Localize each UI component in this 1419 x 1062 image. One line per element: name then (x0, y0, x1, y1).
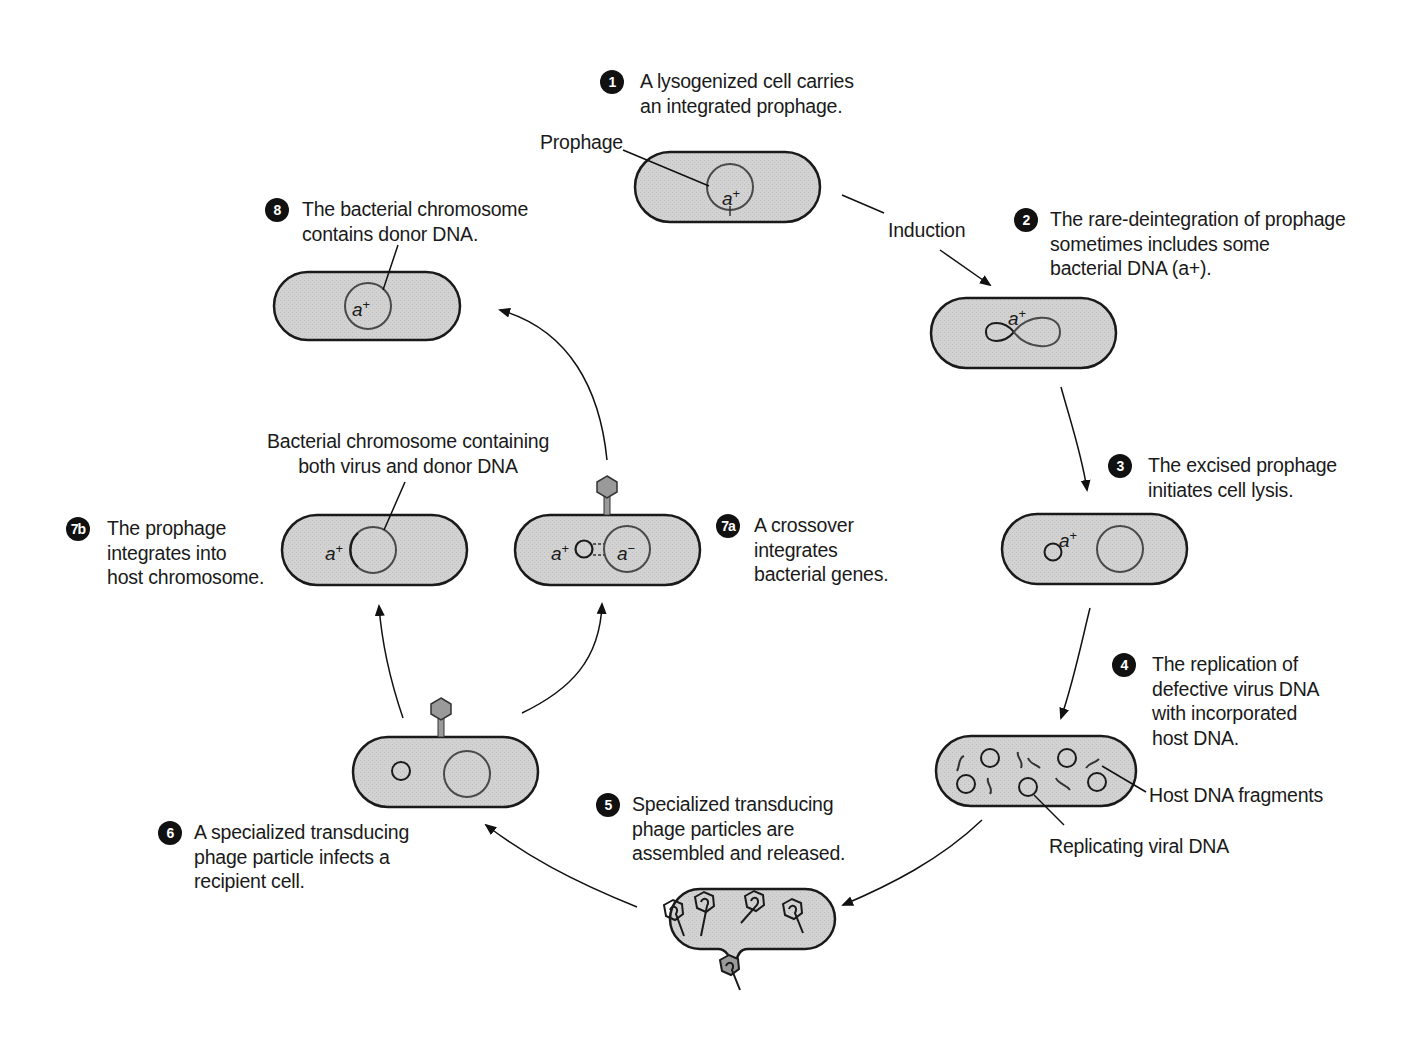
step-7a: 7a A crossover integrates bacterial gene… (716, 513, 888, 587)
gene-a-plus-cell-3: a+ (1059, 526, 1077, 551)
gene-a-plus-cell-7a: a+ (551, 539, 569, 564)
step-2-text: The rare-deintegration of prophage somet… (1050, 207, 1346, 281)
gene-a-plus-cell-8: a+ (352, 295, 370, 320)
step-1-badge: 1 (600, 70, 624, 94)
step-7a-badge: 7a (716, 514, 740, 538)
step-4: 4 The replication of defective virus DNA… (1112, 652, 1319, 750)
diagram-stage: 1 A lysogenized cell carries an integrat… (0, 0, 1419, 1062)
cell-7b-integrated (282, 482, 467, 585)
step-6: 6 A specialized transducing phage partic… (158, 820, 409, 894)
step-7b: 7b The prophage integrates into host chr… (66, 516, 264, 590)
step-1-text: A lysogenized cell carries an integrated… (640, 69, 854, 118)
step-4-text: The replication of defective virus DNA w… (1152, 652, 1319, 750)
step-6-text: A specialized transducing phage particle… (194, 820, 409, 894)
gene-a-plus-cell-2: a+ (1008, 304, 1026, 329)
step-8-text: The bacterial chromosome contains donor … (302, 197, 528, 246)
label-host-dna-fragments: Host DNA fragments (1149, 783, 1323, 808)
step-8: 8 The bacterial chromosome contains dono… (265, 197, 528, 246)
step-7a-text: A crossover integrates bacterial genes. (754, 513, 888, 587)
label-bacterial-chromosome-both: Bacterial chromosome containing both vir… (258, 429, 558, 478)
step-3-text: The excised prophage initiates cell lysi… (1148, 453, 1337, 502)
step-7b-badge: 7b (66, 517, 90, 541)
label-replicating-viral-dna: Replicating viral DNA (1049, 834, 1229, 859)
cell-6-recipient (353, 698, 538, 807)
step-5-badge: 5 (596, 793, 620, 817)
gene-a-minus-cell-7a: a− (617, 539, 635, 564)
label-induction: Induction (888, 218, 965, 243)
step-4-badge: 4 (1112, 653, 1136, 677)
step-3-badge: 3 (1108, 454, 1132, 478)
step-2-badge: 2 (1014, 208, 1038, 232)
cell-3-excised (1002, 514, 1187, 584)
cell-8-donor (274, 245, 460, 340)
step-5-text: Specialized transducing phage particles … (632, 792, 845, 866)
step-1: 1 A lysogenized cell carries an integrat… (600, 69, 854, 118)
step-6-badge: 6 (158, 821, 182, 845)
cell-7a-crossover (515, 476, 700, 585)
gene-a-plus-cell-7b: a+ (325, 539, 343, 564)
cell-5-lysis (664, 889, 835, 990)
label-prophage: Prophage (540, 130, 623, 155)
step-3: 3 The excised prophage initiates cell ly… (1108, 453, 1337, 502)
step-7b-text: The prophage integrates into host chromo… (107, 516, 264, 590)
gene-a-plus-cell-1: a+ (722, 184, 740, 209)
step-2: 2 The rare-deintegration of prophage som… (1014, 207, 1346, 281)
step-5: 5 Specialized transducing phage particle… (596, 792, 845, 866)
step-8-badge: 8 (265, 198, 289, 222)
